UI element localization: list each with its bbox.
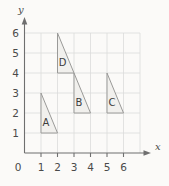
triangle-a-label: A <box>43 117 50 128</box>
coordinate-grid-figure: 1 2 3 4 5 6 1 2 3 4 5 6 0 x y A D B C <box>0 0 169 186</box>
x-tick-label-4: 4 <box>87 161 94 173</box>
axis-x <box>25 150 152 156</box>
x-tick-label-3: 3 <box>71 161 78 173</box>
y-tick-label-1: 1 <box>12 127 19 139</box>
x-tick-label-2: 2 <box>54 161 61 173</box>
triangle-c-label: C <box>109 97 116 108</box>
x-axis-name: x <box>155 141 161 152</box>
y-tick-label-4: 4 <box>12 67 19 79</box>
x-tick-label-6: 6 <box>120 161 127 173</box>
y-tick-label-3: 3 <box>12 87 19 99</box>
y-tick-label-6: 6 <box>12 27 19 39</box>
x-axis-arrowhead <box>144 150 152 156</box>
x-tick-label-5: 5 <box>104 161 111 173</box>
triangle-d-label: D <box>59 57 67 68</box>
plot-canvas: 1 2 3 4 5 6 1 2 3 4 5 6 0 x y A D B C <box>0 0 169 186</box>
x-axis-ticks <box>41 153 124 157</box>
y-tick-label-2: 2 <box>12 107 19 119</box>
triangle-b-label: B <box>76 97 83 108</box>
y-tick-label-5: 5 <box>12 47 19 59</box>
y-axis-arrowhead <box>22 17 28 25</box>
origin-label: 0 <box>15 161 22 173</box>
y-axis-name: y <box>17 4 24 15</box>
x-tick-label-1: 1 <box>38 161 45 173</box>
